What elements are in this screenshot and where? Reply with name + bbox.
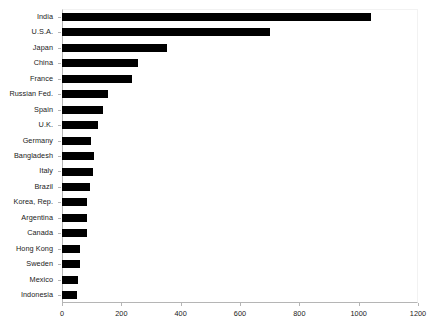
- bar-row: [62, 288, 418, 303]
- bars-layer: [62, 9, 418, 303]
- x-axis-tick-mark: [418, 303, 419, 306]
- y-axis-tick-label: Hong Kong: [16, 245, 53, 253]
- x-axis-tick-mark: [181, 303, 182, 306]
- bar-row: [62, 272, 418, 287]
- x-axis-tick-label: 0: [60, 309, 64, 318]
- x-axis-tick-label: 400: [174, 309, 186, 318]
- bar: [62, 214, 87, 222]
- y-axis-tick-label: India: [37, 13, 53, 21]
- y-axis-tick-label: Brazil: [34, 183, 53, 191]
- bar-row: [62, 180, 418, 195]
- y-axis-tick-mark: [58, 264, 61, 265]
- bar-row: [62, 133, 418, 148]
- bar: [62, 245, 80, 253]
- bar: [62, 121, 98, 129]
- x-axis-tick-mark: [299, 303, 300, 306]
- y-axis-tick-label: Sweden: [26, 260, 53, 268]
- y-axis-tick-label: Indonesia: [21, 291, 53, 299]
- bar: [62, 260, 80, 268]
- bar: [62, 137, 91, 145]
- y-axis-tick-label: China: [34, 59, 53, 67]
- x-axis-tick-mark: [121, 303, 122, 306]
- bar-row: [62, 164, 418, 179]
- bar: [62, 198, 87, 206]
- bar: [62, 183, 90, 191]
- y-axis-tick-mark: [58, 280, 61, 281]
- y-axis-tick-mark: [58, 48, 61, 49]
- y-axis-tick-mark: [58, 141, 61, 142]
- y-axis-tick-label: Japan: [33, 44, 53, 52]
- x-axis-tick-mark: [240, 303, 241, 306]
- x-axis-tick-mark: [62, 303, 63, 306]
- bar-row: [62, 40, 418, 55]
- x-axis-tick-mark: [359, 303, 360, 306]
- bar-row: [62, 118, 418, 133]
- bar-row: [62, 195, 418, 210]
- x-axis-tick-label: 200: [115, 309, 127, 318]
- bar-row: [62, 25, 418, 40]
- bar: [62, 168, 93, 176]
- bar: [62, 106, 103, 114]
- bar-row: [62, 56, 418, 71]
- x-axis-tick-label: 1000: [350, 309, 366, 318]
- bar-row: [62, 87, 418, 102]
- y-axis-tick-label: France: [30, 75, 53, 83]
- x-axis-tick-label: 600: [234, 309, 246, 318]
- y-axis-tick-mark: [58, 249, 61, 250]
- bar: [62, 229, 87, 237]
- y-axis-tick-mark: [58, 110, 61, 111]
- bar: [62, 291, 77, 299]
- y-axis-tick-label: U.K.: [39, 121, 53, 129]
- bar-chart: IndiaU.S.A.JapanChinaFranceRussian Fed.S…: [0, 0, 439, 330]
- y-axis-tick-label: Korea, Rep.: [14, 198, 54, 206]
- x-axis-tick-label: 800: [293, 309, 305, 318]
- bar: [62, 59, 138, 67]
- y-axis-tick-label: Spain: [34, 106, 53, 114]
- y-axis-tick-mark: [58, 125, 61, 126]
- bar-row: [62, 257, 418, 272]
- y-axis-tick-mark: [58, 202, 61, 203]
- bar-row: [62, 226, 418, 241]
- y-axis-tick-mark: [58, 233, 61, 234]
- y-axis-tick-label: Argentina: [21, 214, 53, 222]
- x-axis-tick-label: 1200: [410, 309, 426, 318]
- y-axis-tick-mark: [58, 63, 61, 64]
- y-axis-tick-label: Mexico: [30, 276, 53, 284]
- y-axis-tick-mark: [58, 218, 61, 219]
- y-axis: IndiaU.S.A.JapanChinaFranceRussian Fed.S…: [0, 9, 58, 303]
- y-axis-tick-mark: [58, 17, 61, 18]
- bar: [62, 152, 94, 160]
- bar: [62, 13, 371, 21]
- y-axis-tick-mark: [58, 156, 61, 157]
- y-axis-tick-label: Italy: [39, 167, 53, 175]
- y-axis-tick-label: U.S.A.: [32, 28, 53, 36]
- x-axis: 020040060080010001200: [62, 303, 418, 325]
- bar-row: [62, 241, 418, 256]
- bar: [62, 75, 132, 83]
- bar-row: [62, 102, 418, 117]
- bar-row: [62, 149, 418, 164]
- y-axis-tick-label: Germany: [23, 137, 53, 145]
- bar-row: [62, 9, 418, 24]
- y-axis-tick-mark: [58, 79, 61, 80]
- y-axis-tick-mark: [58, 32, 61, 33]
- y-axis-tick-label: Russian Fed.: [9, 90, 53, 98]
- bar-row: [62, 211, 418, 226]
- y-axis-tick-label: Bangladesh: [14, 152, 53, 160]
- bar: [62, 90, 108, 98]
- bar-row: [62, 71, 418, 86]
- y-axis-tick-mark: [58, 171, 61, 172]
- y-axis-tick-mark: [58, 295, 61, 296]
- y-axis-tick-mark: [58, 94, 61, 95]
- bar: [62, 28, 270, 36]
- bar: [62, 44, 167, 52]
- bar: [62, 276, 78, 284]
- y-axis-tick-label: Canada: [27, 229, 53, 237]
- y-axis-tick-mark: [58, 187, 61, 188]
